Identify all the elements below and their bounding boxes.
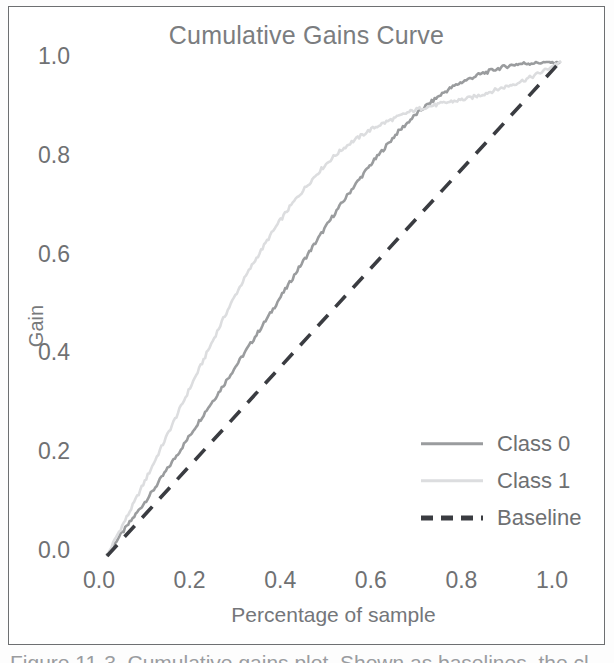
y-tick-label: 0.2	[38, 438, 70, 465]
legend-label: Baseline	[497, 505, 581, 531]
legend-swatch-icon	[421, 437, 483, 451]
y-tick-label: 0.8	[38, 141, 70, 168]
y-tick-label: 0.6	[38, 240, 70, 267]
figure-page: Cumulative Gains Curve Gain Percentage o…	[0, 0, 614, 663]
legend-label: Class 1	[497, 468, 570, 494]
legend-item-class-0[interactable]: Class 0	[421, 425, 611, 462]
y-tick-label: 0.0	[38, 537, 70, 564]
legend-swatch-icon	[421, 474, 483, 488]
legend-swatch-icon	[421, 511, 483, 525]
x-tick-label: 0.2	[174, 567, 206, 594]
chart-plot	[9, 7, 614, 663]
x-tick-label: 0.0	[83, 567, 115, 594]
legend-item-class-1[interactable]: Class 1	[421, 462, 611, 499]
chart-legend: Class 0Class 1Baseline	[421, 425, 611, 536]
x-tick-label: 0.6	[355, 567, 387, 594]
y-tick-label: 0.4	[38, 339, 70, 366]
figure-caption: Figure 11-3. Cumulative gains plot. Show…	[10, 651, 610, 663]
x-tick-label: 0.4	[264, 567, 296, 594]
x-tick-label: 1.0	[536, 567, 568, 594]
legend-item-baseline[interactable]: Baseline	[421, 499, 611, 536]
legend-label: Class 0	[497, 431, 570, 457]
x-tick-label: 0.8	[445, 567, 477, 594]
y-tick-label: 1.0	[38, 43, 70, 70]
figure-frame: Cumulative Gains Curve Gain Percentage o…	[8, 6, 605, 645]
